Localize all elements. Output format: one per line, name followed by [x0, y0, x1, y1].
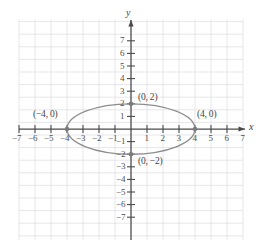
- y-tick-label-neg1: −1: [116, 137, 125, 146]
- y-tick-label-5: 5: [120, 62, 124, 71]
- x-tick-label-neg5: −5: [44, 134, 53, 143]
- y-axis-arrow: [128, 20, 133, 27]
- x-tick-label-neg3: −3: [76, 134, 85, 143]
- point-top-vertex: [129, 102, 134, 107]
- y-tick-label-1: 1: [120, 112, 124, 121]
- point-label-left-vertex: (−4, 0): [33, 110, 58, 120]
- point-left-vertex: [65, 127, 70, 132]
- x-tick-label-2: 2: [161, 134, 165, 143]
- x-tick-label-3: 3: [177, 134, 181, 143]
- x-tick-label-6: 6: [225, 134, 229, 143]
- y-tick-label-2: 2: [120, 99, 124, 108]
- y-tick-label-neg7: −7: [116, 213, 125, 222]
- x-tick-label-neg4: −4: [60, 134, 69, 143]
- x-tick-label-4: 4: [193, 134, 197, 143]
- y-tick-label-neg6: −6: [116, 200, 125, 209]
- x-tick-label-7: 7: [241, 134, 245, 143]
- coordinate-plane-svg: [0, 0, 261, 249]
- y-tick-label-neg5: −5: [116, 188, 125, 197]
- x-tick-label-neg2: −2: [92, 134, 101, 143]
- y-axis-label: y: [126, 8, 130, 18]
- x-axis-label: x: [249, 122, 253, 132]
- point-label-top-vertex: (0, 2): [138, 93, 157, 103]
- x-tick-label-5: 5: [209, 134, 213, 143]
- x-axis-arrow: [239, 126, 246, 131]
- y-tick-label-3: 3: [120, 87, 124, 96]
- y-tick-label-neg2: −2: [116, 150, 125, 159]
- point-label-right-vertex: (4, 0): [197, 110, 216, 120]
- y-tick-label-neg3: −3: [116, 162, 125, 171]
- axis-arrowheads: [128, 20, 245, 132]
- x-tick-label-1: 1: [145, 134, 149, 143]
- x-tick-label-neg6: −6: [28, 134, 37, 143]
- y-tick-label-neg4: −4: [116, 175, 125, 184]
- point-right-vertex: [193, 127, 198, 132]
- graph-figure: −7 −6 −5 −4 −3 −2 −1 1 2 3 4 5 6 7 7 6 5…: [0, 0, 261, 249]
- point-label-bottom-vertex: (0, −2): [138, 157, 163, 167]
- y-tick-label-4: 4: [120, 74, 124, 83]
- y-tick-label-7: 7: [120, 36, 124, 45]
- x-tick-label-neg7: −7: [12, 134, 21, 143]
- point-bottom-vertex: [129, 152, 134, 157]
- y-tick-label-6: 6: [120, 49, 124, 58]
